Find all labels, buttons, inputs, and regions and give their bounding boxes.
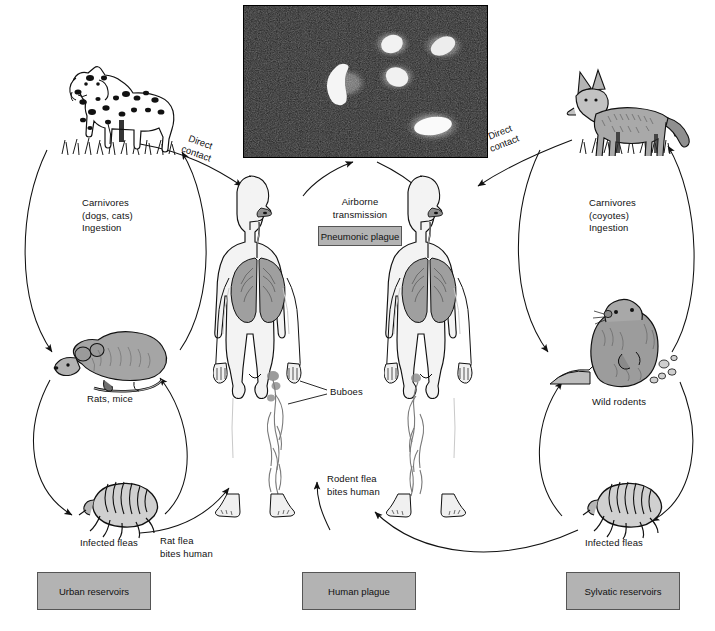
flea-illustration-right bbox=[582, 478, 668, 540]
rat-illustration bbox=[46, 328, 186, 394]
flea-illustration-left bbox=[78, 478, 164, 540]
box-human-plague: Human plague bbox=[302, 572, 416, 610]
human-figure-left bbox=[213, 168, 331, 540]
box-sylvatic-reservoirs: Sylvatic reservoirs bbox=[566, 572, 680, 610]
label-rat-flea-bites-human: Rat flea bites human bbox=[160, 535, 213, 560]
label-carnivores-left: Carnivores (dogs, cats) Ingestion bbox=[82, 197, 133, 235]
dalmatian-dog-illustration bbox=[42, 62, 192, 157]
box-pneumonic-plague: Pneumonic plague bbox=[318, 226, 402, 246]
label-carnivores-right: Carnivores (coyotes) Ingestion bbox=[589, 197, 636, 235]
box-urban-reservoirs: Urban reservoirs bbox=[37, 572, 151, 610]
coyote-illustration bbox=[560, 56, 700, 156]
label-rats-mice: Rats, mice bbox=[87, 393, 133, 406]
label-infected-fleas-right: Infected fleas bbox=[585, 537, 643, 550]
plague-transmission-diagram: Carnivores (dogs, cats) Ingestion Carniv… bbox=[0, 0, 715, 631]
label-infected-fleas-left: Infected fleas bbox=[80, 537, 138, 550]
label-buboes: Buboes bbox=[330, 386, 363, 399]
label-rodent-flea-bites-human: Rodent flea bites human bbox=[327, 473, 380, 498]
label-airborne-transmission: Airborne transmission bbox=[330, 196, 390, 221]
human-figure-right bbox=[384, 168, 502, 540]
wild-rodent-marmot-illustration bbox=[550, 288, 685, 393]
label-wild-rodents: Wild rodents bbox=[592, 396, 646, 409]
